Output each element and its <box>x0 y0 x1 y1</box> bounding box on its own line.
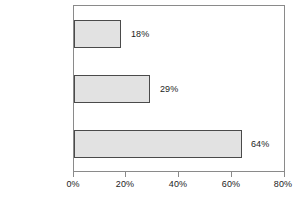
x-axis-tick <box>231 172 232 177</box>
x-axis-tick-label: 60% <box>222 179 240 189</box>
x-axis-tick <box>125 172 126 177</box>
bar-segment <box>74 20 121 48</box>
bar-value-label: 64% <box>251 139 269 149</box>
x-axis-tick-label: 0% <box>66 179 79 189</box>
bar-chart: 100% of income 18% 90% or more of income… <box>0 0 295 201</box>
bar-value-label: 18% <box>131 29 149 39</box>
x-axis-tick-label: 80% <box>274 179 292 189</box>
bars-layer: 100% of income 18% 90% or more of income… <box>74 6 284 171</box>
x-axis-tick-label: 40% <box>169 179 187 189</box>
bar-value-label: 29% <box>160 84 178 94</box>
bar-segment <box>74 75 150 103</box>
x-axis-tick <box>284 172 285 177</box>
x-axis-tick <box>178 172 179 177</box>
x-axis-tick-label: 20% <box>116 179 134 189</box>
x-axis-tick <box>73 172 74 177</box>
bar-segment <box>74 130 242 158</box>
